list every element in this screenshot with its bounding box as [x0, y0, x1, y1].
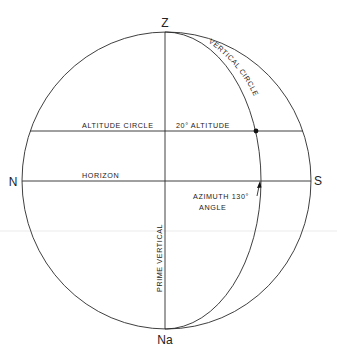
- prime-vertical-label: PRIME VERTICAL: [155, 224, 164, 292]
- celestial-sphere-outline: [22, 32, 311, 329]
- star-position-dot: [254, 129, 259, 134]
- azimuth-angle-label: ANGLE: [199, 203, 226, 212]
- vertical-circle-label: VERTICAL CIRCLE: [207, 37, 260, 98]
- celestial-sphere-diagram: Z Na N S VERTICAL CIRCLE ALTITUDE CIRCLE…: [0, 0, 337, 354]
- north-label: N: [9, 175, 18, 189]
- horizon-label: HORIZON: [82, 171, 119, 180]
- nadir-label: Na: [157, 333, 173, 347]
- altitude-value-label: 20° ALTITUDE: [176, 121, 230, 130]
- azimuth-label: AZIMUTH 130°: [193, 192, 249, 201]
- altitude-circle-label: ALTITUDE CIRCLE: [82, 121, 154, 130]
- south-label: S: [314, 174, 322, 188]
- zenith-label: Z: [161, 16, 168, 30]
